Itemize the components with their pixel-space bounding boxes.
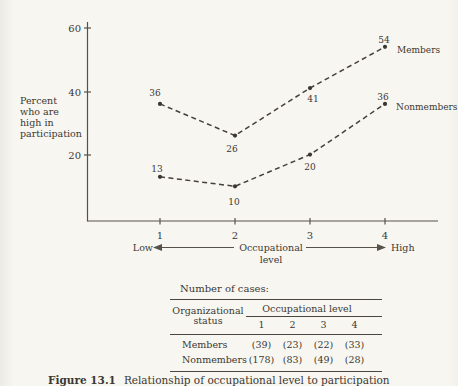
- x-tick-label-2: 2: [232, 230, 238, 241]
- column-label-4: 4: [339, 320, 370, 330]
- members-value-3: 41: [307, 94, 318, 104]
- cases-table-title: Number of cases:: [180, 283, 382, 294]
- table-row-members: Members (39) (23) (22) (33): [170, 335, 382, 352]
- members-value-2: 26: [226, 144, 238, 154]
- column-label-3: 3: [308, 320, 339, 330]
- x-tick-label-3: 3: [307, 230, 313, 241]
- series-layer: [158, 45, 387, 189]
- row-label: Members: [170, 340, 246, 350]
- cell: (39): [246, 340, 277, 350]
- y-axis-title: Percent who are high in participation: [20, 95, 82, 139]
- x-axis-title-line1: Occupational: [239, 242, 303, 253]
- figure-caption: Figure 13.1Relationship of occupational …: [48, 374, 448, 386]
- nonmembers-value-1: 13: [151, 164, 163, 174]
- column-label-2: 2: [277, 320, 308, 330]
- members-value-4: 54: [378, 35, 390, 45]
- data-point-members: [308, 86, 312, 90]
- cases-table-body: Members (39) (23) (22) (33) Nonmembers (…: [170, 335, 382, 371]
- row-header: Organizational status: [170, 304, 246, 334]
- table-row-nonmembers: Nonmembers (178) (83) (49) (28): [170, 352, 382, 370]
- nonmembers-value-2: 10: [228, 197, 240, 207]
- svg-text:participation: participation: [20, 128, 82, 139]
- x-tick-label-4: 4: [382, 230, 388, 241]
- x-axis-low-label: Low: [133, 242, 153, 253]
- cell: (83): [277, 355, 308, 365]
- legend-members: Members: [397, 45, 440, 55]
- data-point-members: [383, 45, 387, 49]
- data-point-nonmembers: [308, 153, 312, 157]
- data-point-nonmembers: [158, 175, 162, 179]
- column-group-header: Occupational level: [246, 304, 382, 317]
- column-labels: 1 2 3 4: [246, 317, 370, 333]
- cell: (49): [308, 355, 339, 365]
- figure-caption-label: Figure 13.1: [48, 374, 116, 386]
- y-tick-label-20: 20: [68, 150, 81, 161]
- cell: (22): [308, 340, 339, 350]
- series-line-nonmembers: [160, 104, 385, 186]
- cell: (28): [339, 355, 370, 365]
- column-label-1: 1: [246, 320, 277, 330]
- cell: (33): [339, 340, 370, 350]
- legend-nonmembers: Nonmembers: [396, 102, 458, 112]
- data-point-nonmembers: [383, 102, 387, 106]
- svg-text:Percent: Percent: [20, 95, 57, 106]
- cases-table-grid: Organizational status Occupational level…: [170, 299, 382, 372]
- left-arrow-head-icon: [153, 244, 162, 251]
- cell: (178): [246, 355, 277, 365]
- members-value-1: 36: [149, 88, 161, 98]
- svg-text:who are: who are: [20, 106, 59, 117]
- data-point-members: [158, 102, 162, 106]
- series-line-members: [160, 47, 385, 136]
- data-point-nonmembers: [233, 184, 237, 188]
- cell: (23): [277, 340, 308, 350]
- svg-text:high in: high in: [20, 117, 54, 128]
- nonmembers-value-4: 36: [377, 92, 389, 102]
- x-axis-high-label: High: [391, 242, 415, 253]
- participation-line-chart: 20 40 60 Percent who are high in partici…: [0, 0, 458, 278]
- figure-caption-text: Relationship of occupational level to pa…: [124, 374, 390, 386]
- cases-table-header: Organizational status Occupational level…: [170, 300, 382, 335]
- row-label: Nonmembers: [170, 355, 246, 365]
- right-arrow-head-icon: [377, 244, 386, 251]
- x-tick-label-1: 1: [157, 230, 163, 241]
- y-tick-label-60: 60: [68, 23, 81, 34]
- row-header-line2: status: [170, 316, 246, 326]
- cases-table: Number of cases: Organizational status O…: [170, 283, 382, 372]
- y-tick-label-40: 40: [68, 87, 81, 98]
- x-axis-annotation: Low Occupational level High: [133, 242, 415, 265]
- x-axis-title-line2: level: [260, 254, 283, 265]
- data-point-members: [233, 133, 237, 137]
- nonmembers-value-3: 20: [304, 162, 316, 172]
